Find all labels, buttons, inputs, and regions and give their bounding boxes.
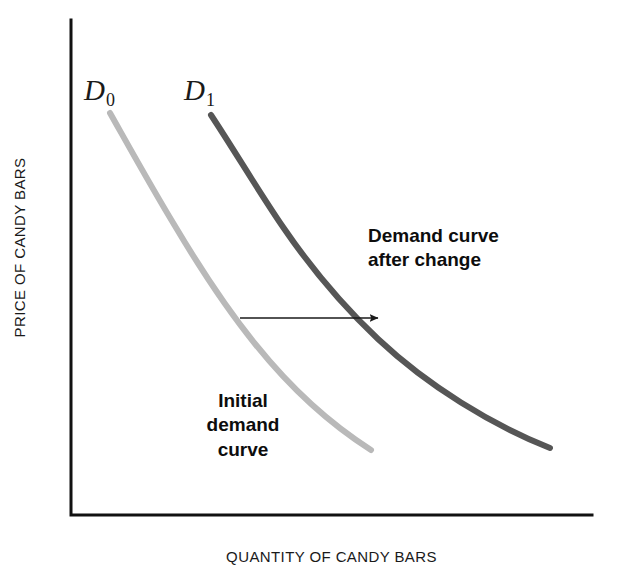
x-axis-title-text: QUANTITY OF CANDY BARS [226, 548, 437, 565]
x-axis-title: QUANTITY OF CANDY BARS [71, 548, 592, 565]
curve-label-d1: D1 [184, 76, 214, 105]
annotation-initial-demand-curve: Initial demand curve [168, 389, 318, 462]
demand-curve-figure: PRICE OF CANDY BARS QUANTITY OF CANDY BA… [0, 0, 623, 585]
y-axis-title: PRICE OF CANDY BARS [0, 0, 40, 495]
curve-label-d0-subscript: 0 [106, 90, 115, 110]
curve-label-d0-base: D [84, 74, 105, 106]
annotation-after-change: Demand curve after change [368, 224, 499, 273]
axis-lines [71, 20, 592, 515]
y-axis-title-text: PRICE OF CANDY BARS [12, 158, 29, 338]
curve-label-d1-base: D [184, 74, 205, 106]
curve-label-d1-subscript: 1 [206, 90, 215, 110]
curve-label-d0: D0 [84, 76, 114, 105]
